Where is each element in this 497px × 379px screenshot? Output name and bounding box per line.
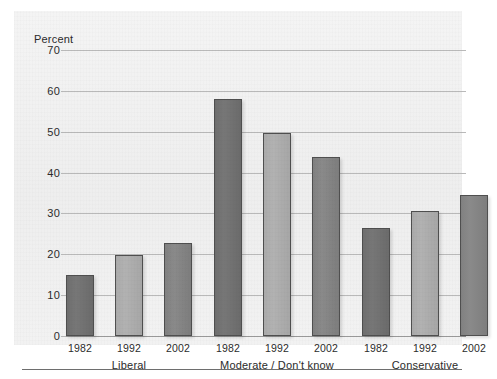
y-tickmark-0 bbox=[61, 336, 66, 337]
bar-conservative-2002 bbox=[460, 195, 488, 336]
bottom-rule bbox=[22, 369, 462, 370]
x-tick-label-0-1992: 1992 bbox=[115, 342, 143, 354]
x-tick-label-1-1992: 1992 bbox=[263, 342, 291, 354]
plot-area: 010203040506070 bbox=[66, 50, 466, 336]
y-tickmark-60 bbox=[61, 91, 66, 92]
y-tickmark-40 bbox=[61, 173, 66, 174]
gridline-70 bbox=[66, 50, 466, 51]
y-tickmark-30 bbox=[61, 213, 66, 214]
y-tick-label-30: 30 bbox=[47, 207, 60, 219]
bar-moderate-don-t-know-2002 bbox=[312, 157, 340, 336]
y-tickmark-70 bbox=[61, 50, 66, 51]
gridline-0 bbox=[66, 336, 466, 337]
x-tick-label-0-1982: 1982 bbox=[66, 342, 94, 354]
bar-conservative-1992 bbox=[411, 211, 439, 336]
x-tick-label-2-1992: 1992 bbox=[411, 342, 439, 354]
bar-liberal-1982 bbox=[66, 275, 94, 336]
y-tick-label-60: 60 bbox=[47, 85, 60, 97]
x-tick-label-2-2002: 2002 bbox=[460, 342, 488, 354]
bar-moderate-don-t-know-1982 bbox=[214, 99, 242, 336]
bar-conservative-1982 bbox=[362, 228, 390, 336]
x-tick-label-1-1982: 1982 bbox=[214, 342, 242, 354]
y-tick-label-40: 40 bbox=[47, 167, 60, 179]
gridline-60 bbox=[66, 91, 466, 92]
y-tick-label-50: 50 bbox=[47, 126, 60, 138]
bar-liberal-2002 bbox=[164, 243, 192, 336]
bar-moderate-don-t-know-1992 bbox=[263, 133, 291, 336]
y-tick-label-20: 20 bbox=[47, 248, 60, 260]
y-tick-label-70: 70 bbox=[47, 44, 60, 56]
x-tick-label-1-2002: 2002 bbox=[312, 342, 340, 354]
y-tick-label-0: 0 bbox=[54, 330, 60, 342]
bar-liberal-1992 bbox=[115, 255, 143, 336]
x-tick-label-0-2002: 2002 bbox=[164, 342, 192, 354]
x-tick-label-2-1982: 1982 bbox=[362, 342, 390, 354]
y-tick-label-10: 10 bbox=[47, 289, 60, 301]
chart-panel: Percent 010203040506070 1982199220021982… bbox=[14, 11, 462, 345]
y-tickmark-50 bbox=[61, 132, 66, 133]
y-tickmark-20 bbox=[61, 254, 66, 255]
